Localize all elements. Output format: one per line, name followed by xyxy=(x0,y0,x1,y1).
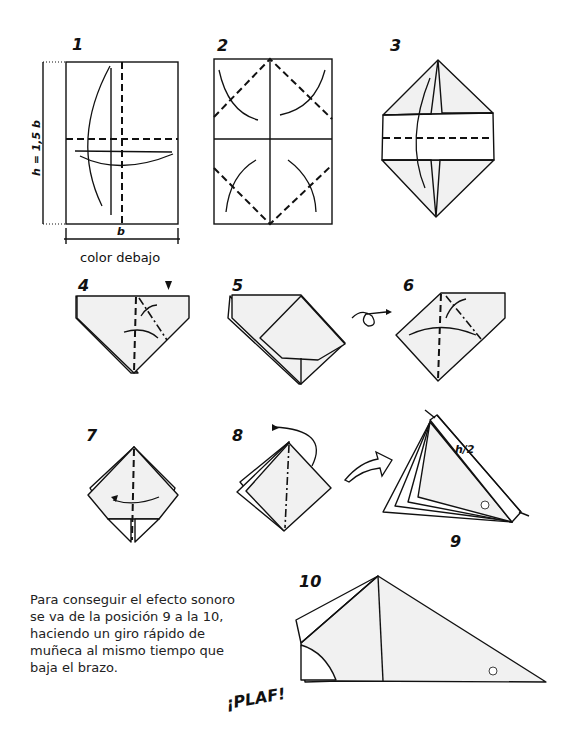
instruction-line: Para conseguir el efecto sonoro xyxy=(30,591,270,608)
step-number-1: 1 xyxy=(72,35,83,54)
instruction-line: se va de la posición 9 a la 10, xyxy=(30,608,270,625)
transition-arrow-icon xyxy=(345,452,392,482)
fold-arrow-icon xyxy=(88,66,110,206)
sound-effect-label: ¡PLAF! xyxy=(225,684,287,713)
step-8: 8 xyxy=(232,424,331,531)
instruction-line: muñeca al mismo tiempo que xyxy=(30,642,270,659)
dimension-width-label: b xyxy=(117,225,125,238)
push-marker-icon xyxy=(165,281,172,290)
instructions-text: Para conseguir el efecto sonoro se va de… xyxy=(30,591,270,676)
step-4: 4 xyxy=(76,276,189,373)
step-number-4: 4 xyxy=(77,276,89,295)
dimension-height-label: h = 1,5 b xyxy=(30,120,43,176)
step-2: 2 xyxy=(214,36,332,224)
step-10: 10 xyxy=(296,572,546,682)
step-number-7: 7 xyxy=(86,426,98,445)
step-number-5: 5 xyxy=(232,276,243,295)
dimension-half-height-label: h/2 xyxy=(455,443,475,456)
step-number-9: 9 xyxy=(450,532,461,551)
step-6: 6 xyxy=(396,276,505,381)
step-5: 5 xyxy=(228,276,345,384)
step-number-10: 10 xyxy=(299,572,321,591)
fold-arrow-icon xyxy=(80,154,173,166)
step-3: 3 xyxy=(382,36,494,217)
step-number-8: 8 xyxy=(232,426,243,445)
step-number-6: 6 xyxy=(403,276,414,295)
step-number-3: 3 xyxy=(390,36,401,55)
instruction-line: haciendo un giro rápido de xyxy=(30,625,270,642)
step-1: 1 h = 1,5 b b color debajo xyxy=(30,35,180,265)
step-number-2: 2 xyxy=(217,36,228,55)
color-underside-caption: color debajo xyxy=(80,250,160,265)
step-9: h/2 9 xyxy=(383,410,529,551)
step-7: 7 xyxy=(86,426,178,542)
instruction-line: baja el brazo. xyxy=(30,659,270,676)
turn-over-icon xyxy=(352,312,386,326)
